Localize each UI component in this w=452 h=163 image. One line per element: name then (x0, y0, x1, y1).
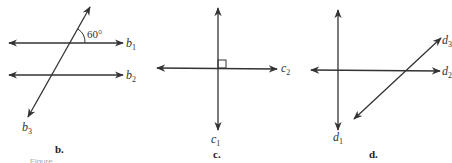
label-d2: d2 (442, 64, 452, 80)
right-angle-marker (218, 60, 226, 68)
caption-d: d. (369, 148, 378, 160)
line-c2 (157, 68, 277, 69)
figure-d: d3 d2 d1 d. (311, 10, 452, 160)
label-d3: d3 (442, 33, 452, 49)
line-b3 (28, 7, 90, 117)
figure-c: c2 c1 c. (157, 8, 290, 160)
label-b2: b2 (126, 68, 136, 84)
caption-b: b. (55, 143, 64, 155)
label-c1: c1 (211, 132, 220, 148)
label-b1: b1 (126, 36, 136, 52)
caption-c: c. (213, 148, 221, 160)
angle-arc (78, 29, 85, 43)
line-d3 (354, 38, 441, 119)
label-b3: b3 (22, 120, 32, 136)
label-d1: d1 (333, 130, 343, 146)
figure-panel: 60° b1 b2 b3 b. c2 c1 c. d3 d2 d1 d. Fig… (0, 0, 452, 163)
label-c2: c2 (281, 61, 290, 77)
angle-label: 60° (87, 28, 102, 40)
truncated-caption: Figure (30, 157, 53, 163)
figure-b: 60° b1 b2 b3 b. (9, 7, 136, 155)
line-d2 (311, 70, 440, 71)
